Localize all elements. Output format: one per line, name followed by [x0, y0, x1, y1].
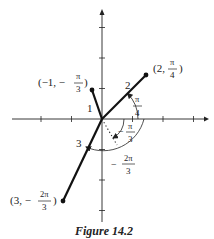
svg-text:π: π — [135, 94, 140, 104]
figure-caption: Figure 14.2 — [74, 224, 133, 238]
angle-label-neg-2pi-over-3: − 2π 3 — [111, 153, 135, 176]
radius-label-p1: 2 — [125, 79, 131, 91]
svg-text:4: 4 — [170, 70, 175, 80]
svg-text:−: − — [118, 126, 124, 137]
point-label-p2: (−1, − π 3 ) — [38, 71, 88, 94]
svg-text:2π: 2π — [40, 189, 49, 199]
svg-text:(2,: (2, — [153, 62, 165, 75]
svg-text:π: π — [76, 71, 81, 81]
svg-text:): ) — [84, 76, 88, 89]
angle-label-neg-pi-over-3: − π 3 — [118, 121, 135, 144]
point-p1 — [144, 73, 149, 78]
svg-text:): ) — [179, 62, 183, 75]
x-axis-arrow-icon — [204, 117, 209, 122]
svg-text:−: − — [111, 159, 117, 170]
point-p2 — [90, 88, 95, 93]
svg-text:3: 3 — [76, 84, 81, 94]
radius-label-p2: 1 — [87, 102, 93, 114]
svg-text:(−1, −: (−1, − — [38, 76, 65, 89]
svg-text:3: 3 — [128, 134, 133, 144]
svg-text:π: π — [170, 57, 175, 67]
y-axis-arrow-icon — [100, 9, 105, 15]
svg-text:2π: 2π — [124, 153, 133, 163]
point-label-p1: (2, π 4 ) — [153, 57, 183, 80]
dotted-ray-neg-pi-over-3 — [102, 119, 117, 145]
polar-coordinates-figure: 2 1 3 (2, π 4 ) (−1, − π 3 ) (3, − 2π 3 … — [0, 0, 214, 239]
segment-p3 — [63, 119, 102, 201]
svg-text:(3, −: (3, − — [10, 194, 31, 207]
point-label-p3: (3, − 2π 3 ) — [10, 189, 57, 212]
svg-text:3: 3 — [42, 202, 47, 212]
radius-label-p3: 3 — [76, 137, 82, 149]
svg-text:4: 4 — [135, 108, 140, 118]
point-p3 — [61, 199, 66, 204]
angle-label-pi-over-4: π 4 — [133, 94, 142, 118]
svg-text:π: π — [128, 121, 133, 131]
svg-text:): ) — [53, 194, 57, 207]
svg-text:3: 3 — [126, 166, 131, 176]
segment-p2 — [92, 90, 102, 119]
